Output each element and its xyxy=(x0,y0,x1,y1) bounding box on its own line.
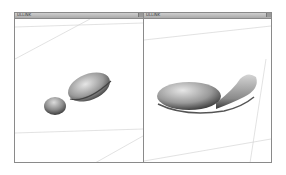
viewport-left-scene xyxy=(15,19,143,163)
viewport-left-canvas[interactable] xyxy=(15,19,143,162)
shape-elongated xyxy=(157,74,257,112)
viewport-right-scene xyxy=(144,19,271,163)
viewport-right-canvas[interactable] xyxy=(144,19,271,162)
viewport-right-title: ULLINK xyxy=(146,12,160,18)
viewport-left-title: ULLINK xyxy=(17,12,31,18)
shape-dumbbell xyxy=(44,67,114,115)
viewport-left[interactable]: ULLINK xyxy=(14,12,144,163)
viewport-right-close-icon[interactable] xyxy=(266,13,271,17)
viewport-right[interactable]: ULLINK xyxy=(143,12,272,163)
